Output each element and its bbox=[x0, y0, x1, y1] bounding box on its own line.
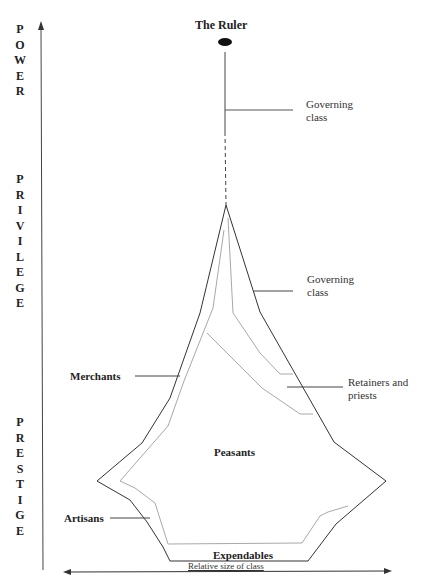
retainers-lower-line bbox=[207, 333, 313, 414]
relative-size-label: Relative size of class bbox=[188, 560, 264, 573]
ruler-label: The Ruler bbox=[195, 19, 247, 32]
vertical-axis bbox=[38, 21, 44, 570]
merchants-label: Merchants bbox=[70, 370, 121, 383]
governing-class-top-label: Governing class bbox=[306, 98, 353, 124]
retainers-label: Retainers and priests bbox=[348, 376, 408, 402]
artisans-label: Artisans bbox=[64, 512, 104, 525]
class-structure-diagram bbox=[0, 0, 427, 586]
ruler-dot bbox=[218, 38, 232, 46]
axis-label-power: P O W E R bbox=[14, 22, 26, 100]
governing-class-mid-label: Governing class bbox=[307, 273, 354, 299]
peasants-label: Peasants bbox=[214, 446, 255, 459]
axis-label-prestige: P R E S T I G E bbox=[14, 415, 26, 539]
axis-label-privilege: P R I V I L E G E bbox=[14, 172, 26, 312]
